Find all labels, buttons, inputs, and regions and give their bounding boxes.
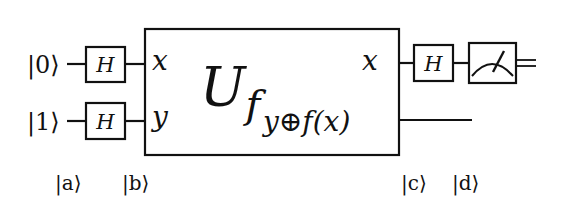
oracle-input-y: y <box>150 100 169 133</box>
stage-label-a: |a⟩ <box>55 171 81 196</box>
oracle-input-x: x <box>152 44 168 77</box>
hadamard-label-bottom: H <box>95 110 115 134</box>
meter-icon <box>469 43 516 83</box>
hadamard-label-top: H <box>95 53 115 77</box>
stage-label-d: |d⟩ <box>452 171 479 196</box>
stage-label-b: |b⟩ <box>122 171 149 196</box>
oracle-output-x: x <box>362 44 378 77</box>
circuit-diagram: |0⟩ |1⟩ H H H x y Uf x y⊕f(x) |a⟩ |b⟩ |c… <box>0 0 568 213</box>
stage-label-c: |c⟩ <box>401 171 427 196</box>
hadamard-label-output: H <box>423 52 443 76</box>
oracle-output-y-xor-fx: y⊕f(x) <box>261 105 350 138</box>
input-ket-1: |1⟩ <box>27 108 60 137</box>
input-ket-0: |0⟩ <box>27 51 60 80</box>
